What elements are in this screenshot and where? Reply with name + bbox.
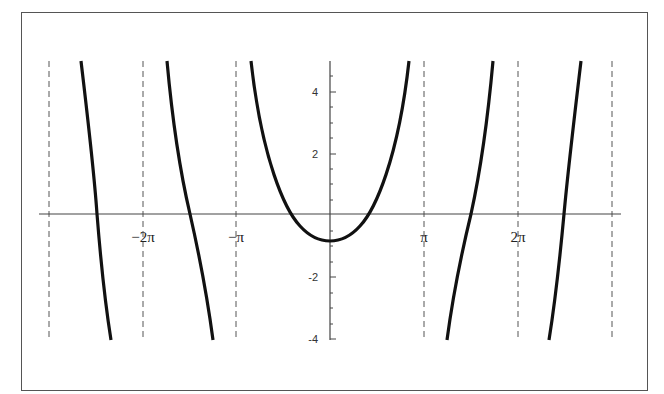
x-tick-label-negpi: −π (228, 229, 244, 245)
y-tick-label-2: 2 (312, 148, 318, 160)
curve-branch-2 (167, 61, 213, 340)
y-tick-label-4: 4 (312, 86, 318, 98)
curve-branch-4 (549, 61, 581, 340)
curve-branch-1 (81, 61, 111, 340)
chart-plot-area: 4 2 -2 -4 −2π −π π 2π (0, 0, 664, 394)
y-tick-label-neg4: -4 (308, 333, 318, 345)
y-axis-ticks (330, 76, 336, 339)
curve-branch-3 (447, 61, 493, 340)
x-tick-label-neg2pi: −2π (131, 229, 155, 245)
x-tick-label-pi: π (420, 229, 428, 245)
y-tick-label-neg2: -2 (308, 271, 318, 283)
x-tick-label-2pi: 2π (510, 229, 526, 245)
